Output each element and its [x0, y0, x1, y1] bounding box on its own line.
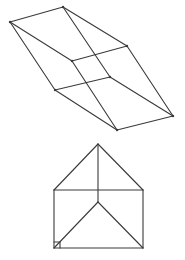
geometry-diagram [0, 0, 185, 260]
parallelepiped-figure [9, 6, 174, 131]
triangular-prism-figure [54, 144, 143, 248]
